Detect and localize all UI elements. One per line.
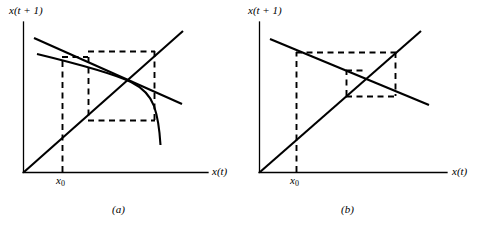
x-axis-label-b: x(t) [452,166,467,177]
figure-root: x(t + 1) x(t) x0 (a) x(t + 1) x(t) x0 (b… [0,0,477,231]
tangent-line-a [34,38,182,104]
panel-b-plot [239,0,477,231]
map-line-b [270,39,429,105]
y-axis-label-a: x(t + 1) [9,5,43,16]
x0-tick-label-a: x0 [56,175,65,188]
panel-a: x(t + 1) x(t) x0 (a) [0,0,238,231]
y-axis-label-b: x(t + 1) [248,5,282,16]
x-axis-label-a: x(t) [212,166,227,177]
panel-b: x(t + 1) x(t) x0 (b) [239,0,477,231]
panel-caption-a: (a) [112,203,125,215]
x0-tick-label-b: x0 [290,175,299,188]
x0-subscript-a: 0 [61,179,65,188]
panel-a-plot [0,0,238,231]
panel-caption-b: (b) [341,203,354,215]
x0-subscript-b: 0 [295,179,299,188]
